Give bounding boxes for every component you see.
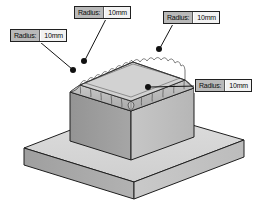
callout-key: Radius:	[196, 80, 225, 91]
callout-top-right[interactable]: Radius: 10mm	[163, 11, 220, 24]
callout-value[interactable]: 10mm	[225, 80, 251, 91]
callout-key: Radius:	[164, 12, 193, 23]
leader-dot-top-right	[156, 46, 162, 52]
leader-line-far-left	[40, 42, 72, 69]
leader-dot-top-left	[81, 58, 87, 64]
callout-key: Radius:	[75, 7, 104, 18]
callout-value[interactable]: 10mm	[193, 12, 219, 23]
leader-line-top-left	[85, 19, 106, 60]
callout-top-left[interactable]: Radius: 10mm	[74, 6, 131, 19]
leader-dot-low-right	[145, 84, 151, 90]
leader-dot-far-left	[70, 67, 76, 73]
callout-value[interactable]: 10mm	[104, 7, 130, 18]
callout-far-left[interactable]: Radius: 10mm	[10, 29, 67, 42]
diagram-canvas: Radius: 10mm Radius: 10mm Radius: 10mm R…	[0, 0, 264, 214]
leader-line-top-right	[160, 24, 173, 48]
callout-key: Radius:	[11, 30, 40, 41]
callout-low-right[interactable]: Radius: 10mm	[195, 79, 252, 92]
callout-value[interactable]: 10mm	[40, 30, 66, 41]
